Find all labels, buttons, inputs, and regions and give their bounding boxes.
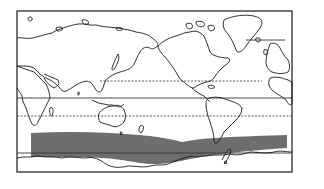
map-canvas <box>0 0 324 189</box>
world-map <box>0 0 324 189</box>
